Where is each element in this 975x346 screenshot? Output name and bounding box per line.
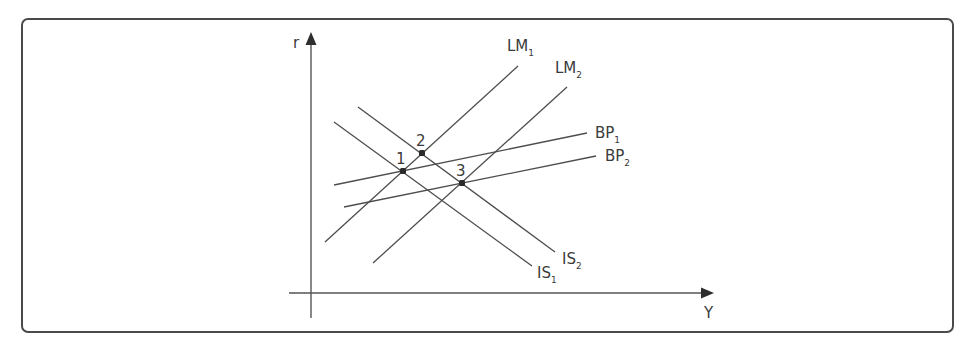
equilibrium-point-1 [400,168,406,174]
equilibrium-point-label-2: 2 [416,132,426,150]
is-lm-bp-diagram: r Y LM1LM2BP1BP2IS1IS2 123 [0,0,975,346]
x-axis-label: Y [703,304,714,322]
y-axis-label: r [293,34,300,52]
equilibrium-point-label-1: 1 [396,150,406,168]
equilibrium-point-2 [419,150,425,156]
diagram-frame [22,19,953,332]
equilibrium-point-label-3: 3 [456,162,466,180]
equilibrium-point-3 [459,180,465,186]
